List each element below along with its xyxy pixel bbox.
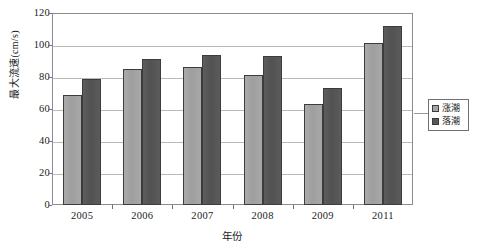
bar-2005-涨潮 [63,95,82,205]
x-tick-label-2008: 2008 [233,210,293,221]
legend-item-涨潮[interactable]: 涨潮 [432,102,466,115]
y-tick-label-20: 20 [10,168,50,178]
bar-group-2008 [233,13,293,205]
legend-label-落潮: 落潮 [442,117,460,126]
x-tick-label-2005: 2005 [52,210,112,221]
x-tick-mark-2 [172,205,173,209]
legend-swatch-icon-涨潮 [432,105,439,112]
legend-item-落潮[interactable]: 落潮 [432,115,466,128]
y-tick-label-40: 40 [10,136,50,146]
y-tick-label-0: 0 [10,200,50,210]
x-tick-label-2011: 2011 [353,210,413,221]
bar-2008-涨潮 [244,75,263,205]
y-tick-mark-0 [48,205,52,206]
x-axis-tick-labels: 200520062007200820092011 [52,210,413,221]
bar-2007-涨潮 [183,67,202,205]
bar-group-2011 [353,13,413,205]
legend-swatch-icon-落潮 [432,118,439,125]
bar-2009-涨潮 [304,104,323,205]
x-tick-mark-1 [112,205,113,209]
x-tick-label-2007: 2007 [172,210,232,221]
bar-group-2007 [172,13,232,205]
bar-group-2005 [52,13,112,205]
bar-2006-涨潮 [123,69,142,205]
legend-label-涨潮: 涨潮 [442,104,460,113]
bar-2008-落潮 [263,56,282,205]
bar-chart: 最大流速(cm/s) 120100806040200 2005200620072… [0,0,487,250]
x-axis-label: 年份 [52,228,413,243]
bar-group-2006 [112,13,172,205]
bar-2007-落潮 [202,55,221,205]
bars-layer [52,13,413,205]
x-tick-label-2009: 2009 [293,210,353,221]
x-tick-mark-3 [233,205,234,209]
bar-group-2009 [293,13,353,205]
bar-2006-落潮 [142,59,161,205]
y-tick-label-100: 100 [10,40,50,50]
x-tick-label-2006: 2006 [112,210,172,221]
y-tick-label-80: 80 [10,72,50,82]
y-tick-label-60: 60 [10,104,50,114]
x-tick-mark-5 [353,205,354,209]
bar-2009-落潮 [323,88,342,205]
legend: 涨潮落潮 [428,99,469,131]
bar-2011-落潮 [383,26,402,205]
bar-2011-涨潮 [364,43,383,205]
x-tick-mark-4 [293,205,294,209]
bar-2005-落潮 [82,79,101,205]
y-tick-label-120: 120 [10,8,50,18]
legend-leader-line [414,113,428,114]
